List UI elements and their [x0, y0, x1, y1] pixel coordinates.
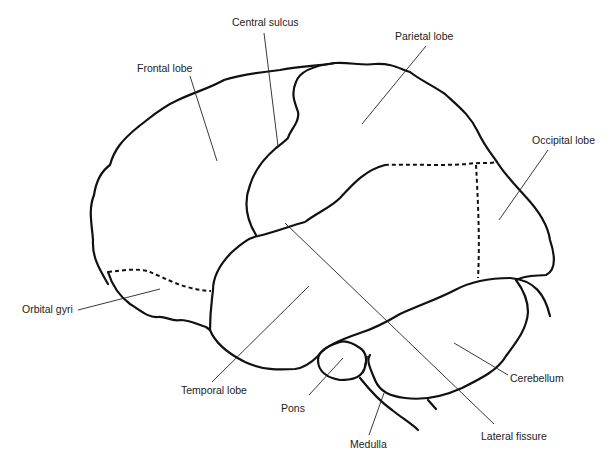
label-occipital-lobe: Occipital lobe	[532, 134, 595, 146]
lateral-fissure-contour	[210, 165, 385, 330]
leader-medulla	[369, 393, 384, 435]
cerebellum-contour	[368, 280, 528, 399]
leader-pons	[309, 358, 343, 395]
occipital-temporal-boundary	[476, 165, 479, 278]
label-temporal-lobe: Temporal lobe	[181, 384, 247, 396]
leader-cerebellum	[454, 343, 508, 375]
medulla-contour	[360, 378, 418, 430]
label-pons: Pons	[281, 402, 305, 414]
cerebrum-outline	[91, 63, 554, 284]
label-orbital-gyri: Orbital gyri	[22, 303, 73, 315]
parieto-occipital-boundary	[385, 162, 497, 165]
label-medulla: Medulla	[350, 438, 387, 450]
brain-lateral-view-diagram: Central sulcus Frontal lobe Parietal lob…	[0, 0, 616, 462]
label-central-sulcus: Central sulcus	[232, 16, 299, 28]
pons-contour	[318, 341, 366, 380]
label-cerebellum: Cerebellum	[510, 372, 564, 384]
label-frontal-lobe: Frontal lobe	[137, 62, 193, 74]
leader-parietal-lobe	[362, 46, 426, 124]
central-sulcus-contour	[246, 63, 335, 235]
orbital-lower-contour	[108, 272, 210, 330]
orbital-gyri-boundary	[108, 270, 211, 291]
label-parietal-lobe: Parietal lobe	[395, 30, 454, 42]
label-lateral-fissure: Lateral fissure	[481, 430, 547, 442]
medulla-contour-inner	[428, 400, 436, 409]
leader-central-sulcus	[264, 33, 278, 146]
temporal-lobe-contour	[210, 278, 550, 369]
leader-occipital-lobe	[499, 150, 548, 220]
